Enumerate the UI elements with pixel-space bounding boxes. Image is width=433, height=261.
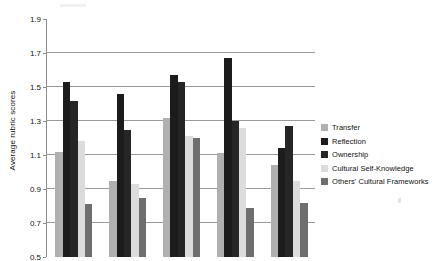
bar bbox=[124, 130, 131, 258]
bar bbox=[55, 152, 62, 257]
legend-swatch-icon bbox=[321, 165, 328, 172]
bar bbox=[185, 136, 192, 257]
bar bbox=[85, 204, 92, 257]
legend-item[interactable]: Cultural Self-Knowledge bbox=[321, 162, 433, 175]
legend-swatch-icon bbox=[321, 151, 328, 158]
bar bbox=[285, 126, 292, 257]
legend-item-label: Cultural Self-Knowledge bbox=[332, 164, 414, 173]
legend-item-label: Transfer bbox=[332, 123, 360, 132]
chart-legend: TransferReflectionOwnershipCultural Self… bbox=[321, 121, 433, 189]
y-tick-mark bbox=[43, 257, 46, 258]
bar bbox=[78, 141, 85, 257]
scan-smudge bbox=[60, 4, 86, 7]
legend-item[interactable]: Ownership bbox=[321, 148, 433, 161]
plot-area bbox=[46, 19, 315, 257]
bar bbox=[278, 148, 285, 257]
bar bbox=[224, 58, 231, 257]
bar bbox=[293, 181, 300, 258]
legend-item-label: Others' Cultural Frameworks bbox=[332, 177, 429, 186]
bar bbox=[139, 198, 146, 258]
bar-group bbox=[47, 19, 101, 257]
y-tick-label: 1.9 bbox=[30, 15, 41, 24]
bar-group bbox=[155, 19, 209, 257]
legend-item[interactable]: Transfer bbox=[321, 121, 433, 134]
bar bbox=[217, 153, 224, 257]
bar bbox=[271, 165, 278, 257]
bar bbox=[131, 184, 138, 257]
bar bbox=[109, 181, 116, 258]
legend-item-label: Reflection bbox=[332, 137, 366, 146]
y-tick-label: 0.9 bbox=[30, 185, 41, 194]
bar bbox=[170, 75, 177, 257]
y-tick-label: 1.3 bbox=[30, 117, 41, 126]
bar bbox=[163, 118, 170, 257]
y-tick-label: 0.7 bbox=[30, 219, 41, 228]
legend-swatch-icon bbox=[321, 178, 328, 185]
bar-group bbox=[101, 19, 155, 257]
bar bbox=[178, 82, 185, 257]
scan-speck bbox=[398, 198, 401, 203]
bar bbox=[70, 101, 77, 257]
legend-swatch-icon bbox=[321, 124, 328, 131]
legend-swatch-icon bbox=[321, 138, 328, 145]
bar-group bbox=[208, 19, 262, 257]
bar-chart: Average rubric scores 0.50.70.91.11.31.5… bbox=[0, 0, 433, 261]
legend-item[interactable]: Reflection bbox=[321, 135, 433, 148]
legend-item[interactable]: Others' Cultural Frameworks bbox=[321, 175, 433, 188]
y-tick-label: 0.5 bbox=[30, 253, 41, 261]
y-tick-label: 1.1 bbox=[30, 151, 41, 160]
y-tick-label: 1.5 bbox=[30, 83, 41, 92]
bar bbox=[193, 138, 200, 257]
legend-item-label: Ownership bbox=[332, 150, 368, 159]
bar bbox=[239, 128, 246, 257]
bar bbox=[300, 203, 307, 257]
bar bbox=[117, 94, 124, 257]
y-axis-ticks: 0.50.70.91.11.31.51.71.9 bbox=[0, 19, 46, 257]
bar-group bbox=[262, 19, 315, 257]
bar bbox=[246, 208, 253, 257]
y-tick-label: 1.7 bbox=[30, 49, 41, 58]
bar bbox=[232, 121, 239, 257]
bar bbox=[63, 82, 70, 257]
